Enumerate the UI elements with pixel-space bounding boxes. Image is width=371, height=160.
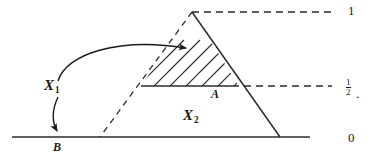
axis-label-half-trailing-mark: . <box>356 86 359 102</box>
arrow-x1-to-hatched-region <box>58 45 186 81</box>
axis-label-half: 1 2 <box>346 77 351 97</box>
label-x1-base: X <box>44 77 54 93</box>
label-x2: X2 <box>183 108 198 123</box>
label-x1-subscript: 1 <box>55 85 60 95</box>
fraction-one-half: 1 2 <box>346 78 351 98</box>
figure-container: X1 X2 A B 1 1 2 . 0 <box>0 0 371 160</box>
triangle-left-edge <box>100 12 192 137</box>
axis-label-one: 1 <box>348 4 355 17</box>
axis-label-zero: 0 <box>348 131 355 144</box>
label-x2-base: X <box>183 107 193 123</box>
label-x1: X1 <box>44 78 59 93</box>
label-x2-subscript: 2 <box>194 115 199 125</box>
label-b: B <box>53 141 61 153</box>
arrow-x1-to-b <box>53 97 58 131</box>
fraction-numerator: 1 <box>346 78 351 87</box>
fraction-denominator: 2 <box>346 87 351 97</box>
label-a: A <box>211 88 219 100</box>
triangle-right-edge <box>192 12 280 137</box>
